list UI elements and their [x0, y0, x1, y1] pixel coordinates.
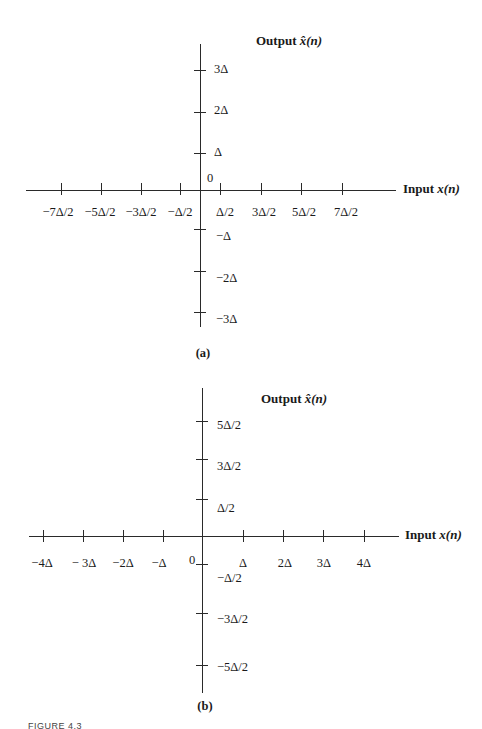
y-tick-label-b: Δ/2	[217, 502, 235, 515]
y-tick-b	[196, 421, 208, 422]
x-tick-b	[364, 530, 365, 542]
y-tick-label-b: 3Δ/2	[217, 460, 241, 473]
x-tick-b	[163, 530, 164, 542]
x-tick-label-b: Δ	[239, 557, 247, 570]
x-axis-b	[29, 536, 399, 537]
x-tick-b	[323, 530, 324, 542]
x-tick-b	[243, 530, 244, 542]
x-tick-label-b: −4Δ	[31, 557, 52, 570]
y-tick-label-b: 5Δ/2	[217, 419, 241, 432]
x-tick-label-b: − 3Δ	[72, 557, 96, 570]
x-tick-label-b: 4Δ	[357, 557, 371, 570]
y-tick-b	[196, 613, 208, 614]
figure-b: Output x̂(n) Input x(n) 0 −4Δ − 3Δ −2Δ −…	[0, 0, 482, 729]
figure-number: FIGURE 4.3	[28, 722, 82, 729]
y-tick-b	[196, 665, 208, 666]
y-tick-label-b: −5Δ/2	[217, 661, 248, 674]
origin-label-b: 0	[189, 554, 195, 567]
x-tick-label-b: −Δ	[151, 557, 166, 570]
y-axis-title-b: Output x̂(n)	[261, 392, 327, 405]
x-axis-title-b: Input x(n)	[405, 528, 462, 541]
x-tick-b	[123, 530, 124, 542]
x-tick-b	[283, 530, 284, 542]
y-tick-label-b: −3Δ/2	[217, 613, 248, 626]
y-tick-b	[196, 564, 208, 565]
caption-b: (b)	[197, 700, 212, 713]
x-tick-label-b: 2Δ	[278, 557, 292, 570]
x-tick-label-b: −2Δ	[112, 557, 133, 570]
x-tick-label-b: 3Δ	[317, 557, 331, 570]
x-tick-b	[43, 530, 44, 542]
y-axis-b	[202, 388, 203, 693]
x-tick-b	[83, 530, 84, 542]
y-tick-b	[196, 499, 208, 500]
y-tick-label-b: −Δ/2	[217, 572, 242, 585]
y-tick-b	[196, 459, 208, 460]
